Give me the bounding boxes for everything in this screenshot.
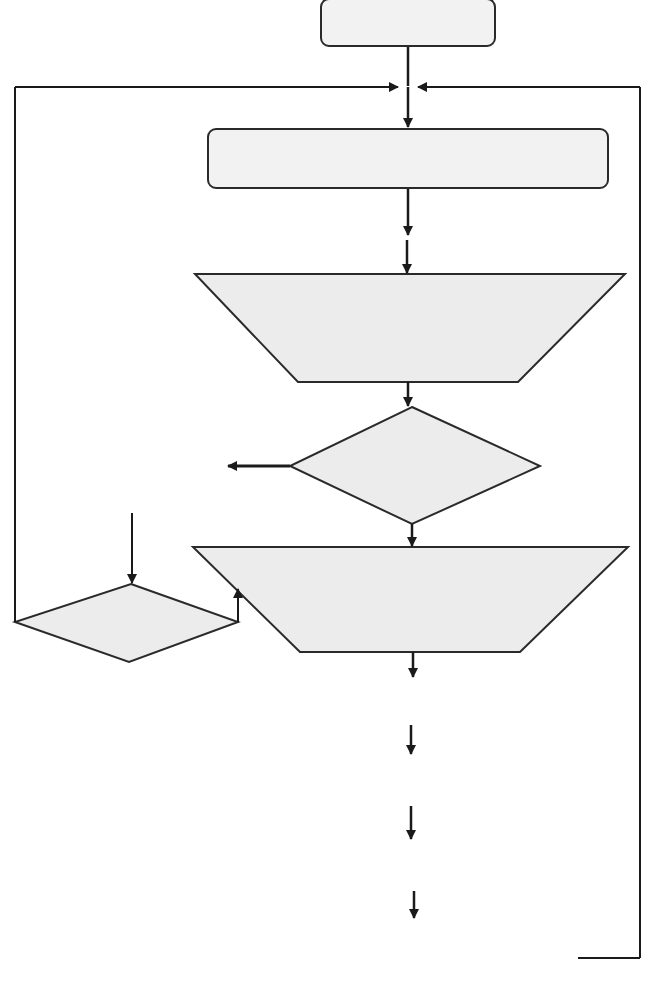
tagent-trapezoid-shape bbox=[195, 274, 625, 382]
navigate-topics-node bbox=[207, 128, 609, 189]
learner-login-node bbox=[320, 0, 496, 47]
accept-diamond-shape bbox=[15, 584, 238, 662]
dagent-trapezoid-shape bbox=[193, 547, 628, 652]
prereq-diamond-shape bbox=[290, 407, 540, 524]
